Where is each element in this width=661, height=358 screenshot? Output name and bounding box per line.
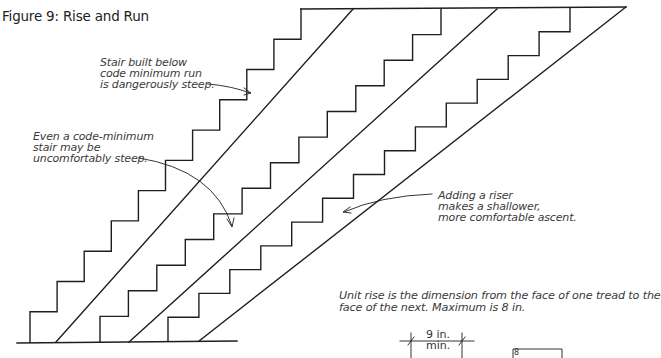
annotation-line: is dangerously steep. <box>100 79 215 90</box>
annotation-line: Unit rise is the dimension from the face… <box>339 290 661 302</box>
annotation-line: more comfortable ascent. <box>438 212 577 223</box>
annotation-line: uncomfortably steep. <box>33 153 154 164</box>
annotation-code-minimum: Even a code-minimum stair may be uncomfo… <box>33 131 154 165</box>
detail-marker: 8 <box>514 349 519 357</box>
top-landing-line <box>301 7 626 9</box>
ground-line <box>17 341 237 343</box>
arrow-code-minimum <box>139 158 232 226</box>
arrow-adding-riser <box>344 194 432 212</box>
annotation-line: face of the next. Maximum is 8 in. <box>339 302 661 314</box>
annotation-unit-rise: Unit rise is the dimension from the face… <box>339 290 661 313</box>
detail-box <box>513 349 562 358</box>
annotation-adding-riser: Adding a riser makes a shallower, more c… <box>438 190 577 224</box>
dimension-label: 9 in. min. <box>426 330 450 351</box>
annotation-below-code: Stair built below code minimum run is da… <box>100 57 215 91</box>
dimension-qualifier: min. <box>426 341 450 352</box>
